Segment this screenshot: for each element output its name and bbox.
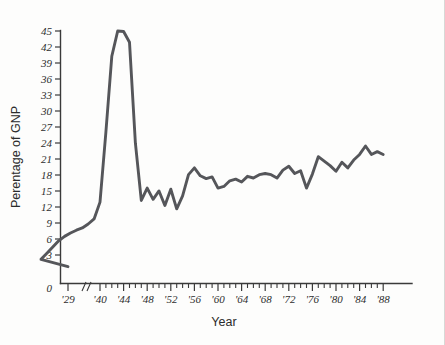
x-tick-label: '64: [235, 293, 249, 305]
x-tick-label: '60: [211, 293, 225, 305]
y-tick-label: 24: [41, 137, 53, 149]
chart-figure: 45 42 39 36 33 30 27 24 21 18 15 12 9 6 …: [0, 0, 445, 345]
y-tick-label: 6: [47, 233, 53, 245]
y-axis-title: Perentage of GNP: [9, 106, 23, 208]
y-tick-label-zero: 0: [47, 282, 53, 294]
x-axis-title: Year: [211, 315, 236, 329]
x-tick-label: '44: [117, 293, 131, 305]
x-tick-label: '84: [353, 293, 367, 305]
y-tick-label: 15: [41, 185, 53, 197]
x-axis-tick-labels: '29 '40 '44 '48 '52 '56 '60 '64 '68 '72 …: [61, 293, 390, 305]
y-tick-label: 12: [41, 201, 53, 213]
y-tick-label: 42: [41, 41, 53, 53]
y-tick-label: 45: [41, 25, 53, 37]
gnp-percentage-series: [41, 31, 383, 267]
x-axis: [61, 282, 413, 291]
y-tick-label: 33: [40, 89, 53, 101]
x-tick-label: '29: [61, 293, 75, 305]
x-tick-label: '88: [377, 293, 391, 305]
x-tick-label: '72: [282, 293, 296, 305]
y-tick-label: 30: [40, 105, 53, 117]
y-tick-label: 27: [41, 121, 53, 133]
y-tick-label: 9: [47, 217, 53, 229]
x-tick-label: '68: [259, 293, 273, 305]
x-tick-label: '48: [141, 293, 155, 305]
x-tick-label: '52: [164, 293, 178, 305]
x-tick-label: '76: [306, 293, 320, 305]
x-tick-label: '40: [93, 293, 107, 305]
y-tick-label: 21: [41, 153, 52, 165]
gnp-percentage-line-chart: 45 42 39 36 33 30 27 24 21 18 15 12 9 6 …: [0, 0, 445, 345]
y-tick-label: 39: [40, 57, 53, 69]
y-tick-label: 36: [40, 73, 53, 85]
y-tick-label: 18: [41, 169, 53, 181]
x-tick-label: '80: [329, 293, 343, 305]
x-tick-label: '56: [188, 293, 202, 305]
